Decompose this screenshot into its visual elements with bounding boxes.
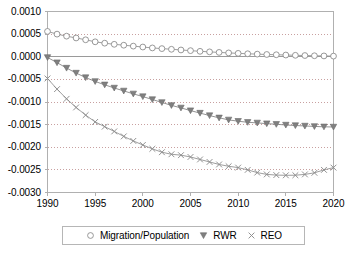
data-point-marker [54, 60, 60, 66]
data-point-marker [73, 70, 79, 76]
open-circle-marker [45, 29, 51, 35]
data-point-marker [45, 29, 51, 35]
open-circle-marker [140, 44, 146, 50]
data-point-marker [149, 146, 155, 152]
data-point-marker [216, 50, 222, 56]
open-circle-marker [111, 41, 117, 47]
triangle-down-marker [121, 88, 127, 94]
plot-area [0, 0, 346, 259]
triangle-down-marker [111, 85, 117, 91]
x-cross-marker [73, 105, 79, 111]
data-point-marker [54, 31, 60, 37]
data-point-marker [111, 41, 117, 47]
x-cross-marker [207, 159, 213, 165]
data-point-marker [111, 129, 117, 135]
open-circle-marker [216, 50, 222, 56]
data-point-marker [88, 233, 94, 239]
x-cross-marker [159, 149, 165, 155]
open-circle-marker [178, 47, 184, 53]
data-point-marker [207, 49, 213, 55]
open-circle-marker [292, 52, 298, 58]
data-point-marker [44, 55, 50, 61]
series-rwr [44, 55, 336, 130]
open-circle-marker [149, 45, 155, 51]
x-cross-marker [321, 167, 327, 173]
open-circle-marker [83, 37, 89, 43]
open-circle-marker [321, 53, 327, 59]
open-circle-marker [188, 48, 194, 54]
open-circle-marker [235, 50, 241, 56]
x-cross-marker [64, 96, 70, 102]
data-point-marker [64, 33, 70, 39]
x-cross-marker [83, 112, 89, 118]
legend-item: REO [246, 230, 282, 241]
data-point-marker [264, 52, 270, 58]
triangle-down-marker [44, 55, 50, 61]
x-cross-marker [92, 119, 98, 125]
x-cross-marker [111, 129, 117, 135]
open-circle-marker [73, 35, 79, 41]
open-circle-marker [245, 51, 251, 57]
data-point-marker [140, 142, 146, 148]
data-point-marker [321, 53, 327, 59]
open-circle-marker [254, 51, 260, 57]
series-line [48, 78, 334, 175]
triangle-down-marker [200, 233, 206, 239]
data-point-marker [130, 43, 136, 49]
data-point-marker [64, 96, 70, 102]
data-point-marker [197, 48, 203, 54]
data-point-marker [312, 53, 318, 59]
data-point-marker [83, 37, 89, 43]
open-circle-marker [169, 46, 175, 52]
triangle-down-marker [178, 105, 184, 111]
triangle-down-marker [73, 70, 79, 76]
data-point-marker [235, 50, 241, 56]
data-point-marker [207, 159, 213, 165]
legend-label: RWR [213, 231, 236, 241]
open-circle-marker [302, 53, 308, 59]
filled-triangle-down-icon [198, 230, 209, 241]
data-point-marker [248, 233, 254, 239]
gridlines [48, 34, 334, 170]
data-point-marker [200, 233, 206, 239]
triangle-down-marker [82, 75, 88, 81]
data-point-marker [245, 51, 251, 57]
data-point-marker [159, 46, 165, 52]
data-point-marker [283, 52, 289, 58]
legend-item: Migration/Population [85, 230, 189, 241]
open-circle-marker [54, 31, 60, 37]
triangle-down-marker [92, 79, 98, 85]
data-point-marker [197, 157, 203, 163]
data-point-marker [92, 119, 98, 125]
data-point-marker [111, 85, 117, 91]
triangle-down-marker [54, 60, 60, 66]
x-cross-icon [246, 230, 257, 241]
data-point-marker [159, 149, 165, 155]
open-circle-marker [102, 40, 108, 46]
data-point-marker [63, 65, 69, 71]
open-circle-marker [226, 50, 232, 56]
x-cross-marker [140, 142, 146, 148]
x-cross-marker [54, 86, 60, 92]
triangle-down-marker [140, 94, 146, 100]
triangle-down-marker [63, 65, 69, 71]
x-cross-marker [149, 146, 155, 152]
series-migration-population [45, 29, 337, 60]
data-point-marker [121, 88, 127, 94]
data-point-marker [292, 52, 298, 58]
data-point-marker [73, 35, 79, 41]
chart-legend: Migration/PopulationRWRREO [62, 226, 305, 245]
open-circle-marker [130, 43, 136, 49]
data-point-marker [130, 138, 136, 144]
legend-label: REO [261, 231, 282, 241]
data-point-marker [140, 94, 146, 100]
open-circle-marker [312, 53, 318, 59]
data-point-marker [226, 50, 232, 56]
legend-item: RWR [198, 230, 236, 241]
data-point-marker [73, 105, 79, 111]
data-point-marker [159, 100, 165, 106]
data-point-marker [121, 133, 127, 139]
open-circle-marker [273, 52, 279, 58]
data-point-marker [331, 53, 337, 59]
x-cross-marker [248, 233, 254, 239]
